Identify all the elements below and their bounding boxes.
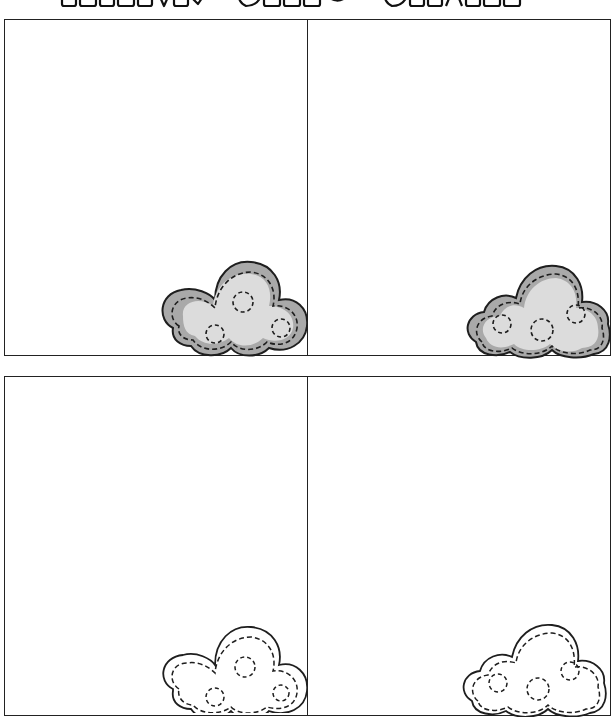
- outline-cloud-icon: [155, 613, 311, 713]
- panel-bottom-right: [307, 376, 611, 716]
- shaded-cloud-icon: [155, 250, 311, 360]
- panel-top-right: [307, 19, 611, 356]
- panel-top-left: [4, 19, 308, 356]
- title-lettering-icon: [50, 0, 563, 12]
- outline-cloud-icon: [458, 617, 612, 717]
- shaded-cloud-icon: [462, 258, 613, 360]
- page-title: Rainy Cloud Craft: [50, 0, 563, 12]
- panel-bottom-left: [4, 376, 308, 716]
